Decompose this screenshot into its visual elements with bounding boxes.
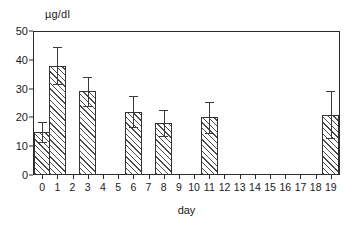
x-tick-mark	[42, 175, 43, 179]
y-tick-label: 50	[16, 25, 28, 37]
error-bar-line	[133, 96, 134, 128]
y-tick-mark	[29, 146, 33, 147]
plot-area: 01020304050	[33, 31, 340, 175]
x-tick-mark	[73, 175, 74, 179]
x-tick-label: 15	[264, 181, 276, 193]
y-tick-label: 30	[16, 83, 28, 95]
x-tick-mark	[57, 175, 58, 179]
y-tick-label: 10	[16, 140, 28, 152]
x-tick-label: 18	[310, 181, 322, 193]
x-tick-label: 0	[39, 181, 45, 193]
x-tick-label: 19	[325, 181, 337, 193]
chart-figure: µg/dl 01020304050 0123456789101112131415…	[0, 0, 350, 240]
x-tick-mark	[316, 175, 317, 179]
y-tick-mark	[29, 88, 33, 89]
error-bar-cap-upper	[326, 91, 335, 92]
x-tick-label: 3	[85, 181, 91, 193]
error-bar-cap-lower	[38, 142, 47, 143]
error-bar-line	[209, 102, 210, 134]
x-axis-label: day	[33, 204, 340, 216]
x-tick-mark	[194, 175, 195, 179]
error-bar-cap-lower	[53, 84, 62, 85]
error-bar-cap-upper	[129, 96, 138, 97]
x-axis-ticks: 012345678910111213141516171819	[33, 175, 340, 205]
y-tick-label: 0	[22, 169, 28, 181]
x-tick-mark	[118, 175, 119, 179]
x-tick-mark	[300, 175, 301, 179]
x-tick-label: 12	[219, 181, 231, 193]
x-tick-label: 17	[295, 181, 307, 193]
error-bar-cap-upper	[83, 77, 92, 78]
error-bar-cap-upper	[205, 102, 214, 103]
x-tick-label: 14	[249, 181, 261, 193]
x-tick-label: 6	[130, 181, 136, 193]
y-axis-unit-label: µg/dl	[45, 8, 70, 20]
x-tick-mark	[285, 175, 286, 179]
error-bar-cap-lower	[129, 127, 138, 128]
x-tick-mark	[133, 175, 134, 179]
x-tick-mark	[88, 175, 89, 179]
error-bar-line	[88, 77, 89, 106]
x-tick-label: 8	[161, 181, 167, 193]
x-tick-mark	[270, 175, 271, 179]
x-tick-label: 16	[279, 181, 291, 193]
x-tick-mark	[331, 175, 332, 179]
y-tick-label: 40	[16, 54, 28, 66]
x-tick-mark	[255, 175, 256, 179]
y-tick-mark	[29, 117, 33, 118]
x-tick-label: 11	[204, 181, 215, 193]
x-tick-mark	[164, 175, 165, 179]
y-tick-mark	[29, 31, 33, 32]
x-tick-mark	[240, 175, 241, 179]
error-bar-cap-upper	[159, 110, 168, 111]
x-tick-mark	[209, 175, 210, 179]
x-tick-mark	[149, 175, 150, 179]
error-bar-line	[164, 110, 165, 136]
y-tick-label: 20	[16, 111, 28, 123]
x-tick-label: 2	[70, 181, 76, 193]
x-tick-label: 4	[100, 181, 106, 193]
x-tick-label: 13	[234, 181, 246, 193]
y-tick-mark	[29, 59, 33, 60]
x-tick-mark	[179, 175, 180, 179]
error-bar-cap-lower	[159, 136, 168, 137]
error-bar-cap-lower	[326, 138, 335, 139]
x-tick-label: 1	[54, 181, 60, 193]
error-bar-line	[42, 122, 43, 142]
x-tick-mark	[224, 175, 225, 179]
error-bar-line	[331, 91, 332, 137]
error-bar-cap-lower	[205, 133, 214, 134]
x-tick-label: 7	[146, 181, 152, 193]
x-tick-label: 9	[176, 181, 182, 193]
x-tick-label: 5	[115, 181, 121, 193]
x-tick-mark	[103, 175, 104, 179]
x-tick-label: 10	[188, 181, 200, 193]
error-bar-line	[57, 47, 58, 84]
error-bar-cap-upper	[38, 122, 47, 123]
error-bar-cap-lower	[83, 106, 92, 107]
error-bar-cap-upper	[53, 47, 62, 48]
